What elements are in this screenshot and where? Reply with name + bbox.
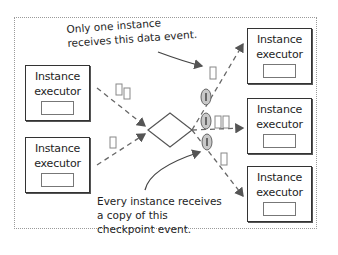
executor-input-slot bbox=[263, 64, 296, 78]
executor-label: executor bbox=[248, 47, 311, 62]
upstream-executor-1: Instance executor bbox=[25, 65, 90, 121]
data-event-icon bbox=[124, 88, 130, 99]
executor-label: Instance bbox=[26, 141, 89, 156]
executor-input-slot bbox=[41, 101, 74, 115]
checkpoint-event-icon bbox=[201, 89, 211, 105]
data-event-icon bbox=[210, 67, 216, 79]
executor-label: Instance bbox=[248, 32, 311, 47]
executor-label: Instance bbox=[248, 170, 311, 185]
checkpoint-event-icon bbox=[202, 134, 212, 150]
executor-input-slot bbox=[263, 202, 296, 216]
data-event-callout-arrow bbox=[158, 52, 202, 66]
upstream-executor-2: Instance executor bbox=[25, 137, 90, 193]
executor-label: Instance bbox=[26, 69, 89, 84]
executor-label: executor bbox=[248, 117, 311, 132]
executor-label: Instance bbox=[248, 102, 311, 117]
checkpoint-event-icon bbox=[201, 113, 211, 129]
router-diamond bbox=[148, 113, 192, 147]
downstream-executor-2: Instance executor bbox=[247, 98, 312, 154]
downstream-executor-3: Instance executor bbox=[247, 166, 312, 222]
executor-input-slot bbox=[41, 173, 74, 187]
data-event-icon bbox=[110, 137, 116, 148]
checkpoint-callout-arrow bbox=[145, 152, 200, 190]
executor-input-slot bbox=[263, 134, 296, 148]
data-event-icon bbox=[221, 153, 227, 165]
executor-label: executor bbox=[248, 185, 311, 200]
checkpoint-event-note: Every instance receives a copy of this c… bbox=[97, 194, 222, 236]
data-event-icon bbox=[215, 116, 221, 128]
downstream-executor-1: Instance executor bbox=[247, 28, 312, 84]
executor-label: executor bbox=[26, 84, 89, 99]
data-event-icon bbox=[116, 84, 122, 95]
data-event-icon bbox=[223, 116, 229, 128]
executor-label: executor bbox=[26, 156, 89, 171]
